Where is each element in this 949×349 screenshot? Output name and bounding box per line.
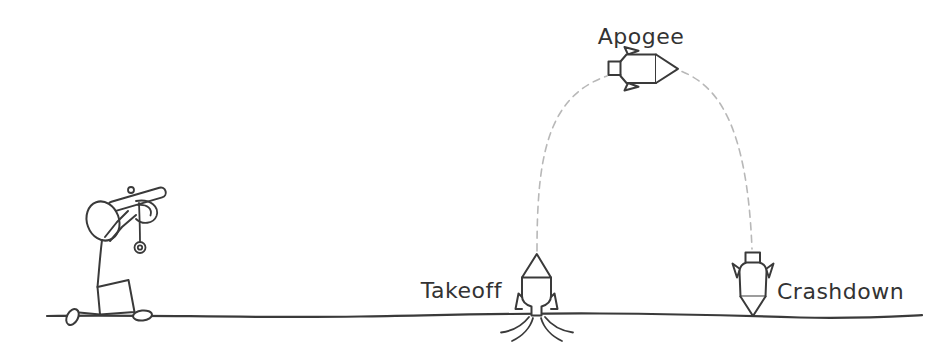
trajectory-arc-ascent [537, 76, 607, 251]
apogee-rocket-nozzle [609, 62, 621, 76]
apogee-rocket-nose-cone [656, 55, 678, 84]
pull-ring [135, 242, 146, 253]
back-foot [64, 307, 82, 327]
crashdown-label: Crashdown [777, 279, 904, 304]
exhaust-line [512, 318, 533, 341]
exhaust-line [541, 318, 562, 341]
apogee-label: Apogee [598, 24, 685, 49]
back-shin [79, 313, 100, 315]
kneeling-leg [98, 280, 135, 315]
pull-cord [139, 203, 140, 242]
front-foot [133, 310, 153, 322]
takeoff-rocket-body [522, 278, 551, 316]
exhaust-line [545, 317, 573, 333]
apogee-rocket-fin-bottom [625, 83, 639, 91]
ground-line [47, 313, 922, 318]
takeoff-label: Takeoff [420, 278, 503, 303]
tube-sight-knob [128, 187, 134, 193]
trajectory-arc-descent [682, 72, 752, 250]
takeoff-rocket-nose-cone [522, 254, 551, 278]
observer-figure [64, 186, 167, 327]
scene-drawing: Takeoff Apogee Crashdown [0, 0, 949, 349]
crashdown-rocket-nose-cone [741, 297, 766, 317]
torso [98, 240, 103, 287]
crashdown-rocket [733, 253, 774, 317]
crashdown-rocket-body [740, 263, 767, 297]
pull-ring-hub [138, 245, 142, 249]
takeoff-rocket [501, 254, 573, 341]
crashdown-rocket-nozzle [746, 253, 761, 263]
comic-panel: Takeoff Apogee Crashdown [0, 0, 949, 349]
apogee-rocket-body [621, 55, 657, 84]
launcher-tube [107, 186, 167, 212]
apogee-rocket [609, 47, 679, 91]
exhaust-plume [501, 317, 573, 341]
trajectory [537, 72, 752, 252]
exhaust-line [501, 317, 529, 333]
